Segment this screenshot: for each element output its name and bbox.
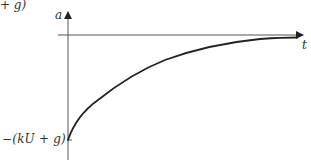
y-axis-label: a	[55, 9, 62, 21]
acceleration-time-graph: + g) a t −(kU + g)	[0, 0, 311, 160]
x-axis-label: t	[302, 39, 307, 51]
acceleration-curve	[68, 38, 297, 141]
top-partial-label: + g)	[0, 0, 26, 11]
intercept-label: −(kU + g)	[2, 133, 66, 145]
